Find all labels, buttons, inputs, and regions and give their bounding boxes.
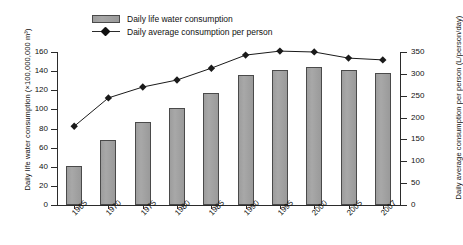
y-axis-left-tick-label: 120: [22, 86, 48, 94]
y-axis-right-tick: [401, 205, 407, 206]
bar: [375, 73, 391, 205]
legend-label-bar: Daily life water consumption: [127, 14, 233, 24]
line-marker-diamond: [242, 51, 249, 58]
y-axis-left-tick: [51, 205, 57, 206]
bar: [272, 70, 288, 205]
line-marker-diamond: [208, 65, 215, 72]
bar: [100, 140, 116, 205]
y-axis-left-tick-label: 80: [22, 125, 48, 133]
y-axis-right-tick-label: 0: [411, 201, 441, 209]
bar: [135, 122, 151, 205]
bar-swatch-icon: [92, 15, 120, 23]
bar: [306, 67, 322, 205]
line-diamond-icon: [92, 28, 120, 36]
bar: [203, 93, 219, 205]
y-axis-right-tick: [401, 183, 407, 184]
legend-label-line: Daily average consumption per person: [127, 27, 273, 37]
y-axis-left-tick: [51, 109, 57, 110]
bar: [169, 108, 185, 205]
bar: [66, 166, 82, 205]
line-marker-diamond: [139, 83, 146, 90]
y-axis-left-tick: [51, 52, 57, 53]
chart-legend: Daily life water consumption Daily avera…: [92, 12, 273, 38]
y-axis-left-tick: [51, 129, 57, 130]
y-axis-right-tick: [401, 161, 407, 162]
y-axis-right-tick-label: 100: [411, 157, 441, 165]
y-axis-left-tick: [51, 71, 57, 72]
y-axis-left-tick-label: 20: [22, 182, 48, 190]
line-marker-diamond: [345, 54, 352, 61]
y-axis-left-line: [57, 52, 58, 206]
y-axis-left-tick-label: 0: [22, 201, 48, 209]
y-axis-right-tick-label: 150: [411, 135, 441, 143]
line-marker-diamond: [105, 94, 112, 101]
line-path: [74, 51, 383, 126]
y-axis-right-tick: [401, 118, 407, 119]
y-axis-left-tick: [51, 90, 57, 91]
y-axis-right-tick-label: 200: [411, 114, 441, 122]
legend-item-bar: Daily life water consumption: [92, 12, 273, 25]
y-axis-left-tick-label: 40: [22, 163, 48, 171]
y-axis-left-tick-label: 160: [22, 48, 48, 56]
y-axis-left-tick: [51, 186, 57, 187]
y-axis-right-tick-label: 250: [411, 92, 441, 100]
y-axis-right-tick-label: 50: [411, 179, 441, 187]
y-axis-left-tick: [51, 148, 57, 149]
y-axis-right-tick-label: 300: [411, 70, 441, 78]
legend-item-line: Daily average consumption per person: [92, 25, 273, 38]
line-marker-diamond: [311, 48, 318, 55]
line-marker-diamond: [379, 56, 386, 63]
y-axis-left-tick-label: 100: [22, 105, 48, 113]
line-marker-diamond: [276, 47, 283, 54]
bar: [341, 70, 357, 205]
y-axis-right-title: Daily average consumption per person (L/…: [454, 20, 463, 200]
y-axis-left-tick: [51, 167, 57, 168]
y-axis-right-tick: [401, 52, 407, 53]
y-axis-right-tick: [401, 139, 407, 140]
y-axis-right-tick: [401, 74, 407, 75]
y-axis-right-tick-label: 350: [411, 48, 441, 56]
y-axis-left-tick-label: 60: [22, 144, 48, 152]
line-marker-diamond: [71, 123, 78, 130]
bar: [238, 75, 254, 205]
y-axis-left-tick-label: 140: [22, 67, 48, 75]
line-marker-diamond: [173, 76, 180, 83]
y-axis-right-tick: [401, 96, 407, 97]
